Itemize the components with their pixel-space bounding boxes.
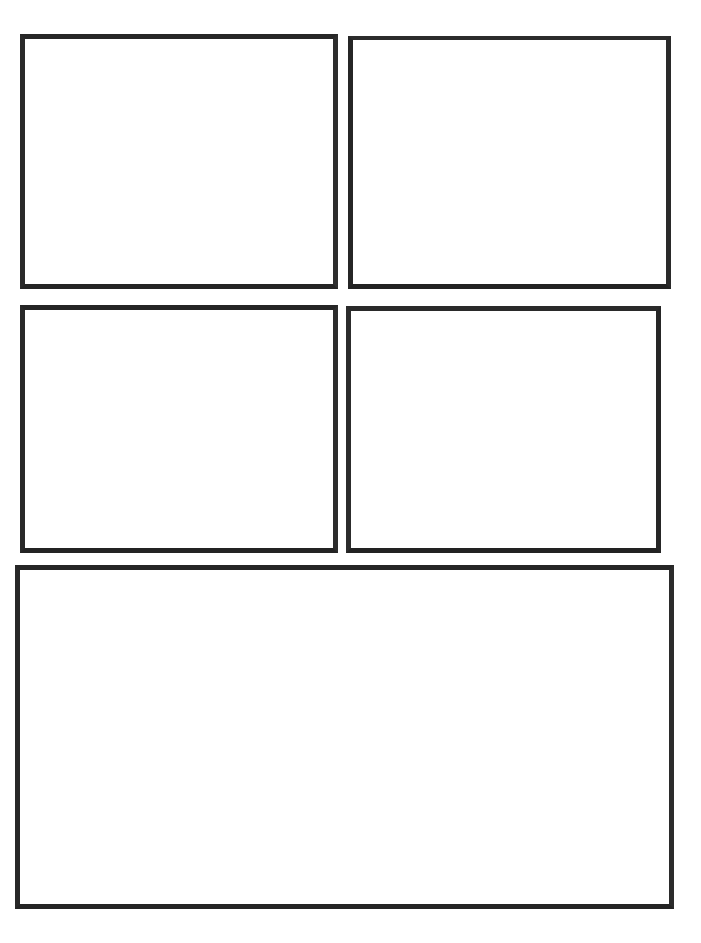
panel-top-left[interactable] (20, 34, 338, 289)
panel-bottom-wide[interactable] (15, 565, 674, 909)
panel-top-right[interactable] (348, 36, 671, 289)
panel-top-right-content (353, 40, 666, 284)
panel-middle-right[interactable] (346, 306, 661, 553)
panel-middle-right-content (351, 311, 656, 548)
panel-middle-left[interactable] (20, 305, 338, 553)
panel-bottom-wide-content (20, 570, 669, 904)
page-canvas (0, 0, 701, 943)
panel-top-left-content (25, 39, 333, 284)
panel-middle-left-content (25, 310, 333, 548)
